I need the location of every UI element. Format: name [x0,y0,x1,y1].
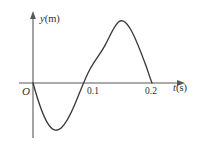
y-axis-arrowhead [30,11,36,19]
origin-label: O [22,86,30,97]
plot-canvas [0,0,205,145]
y-axis-unit: (m) [45,13,60,24]
wave-curve [33,21,152,130]
x-axis-unit: (s) [176,82,187,93]
y-axis-label: y(m) [40,14,60,25]
x-tick-label-0.1: 0.1 [87,87,99,97]
x-axis-label: t(s) [173,83,187,94]
x-tick-label-0.2: 0.2 [145,87,157,97]
wave-graph-figure: y(m) t(s) O 0.1 0.2 [0,0,205,145]
